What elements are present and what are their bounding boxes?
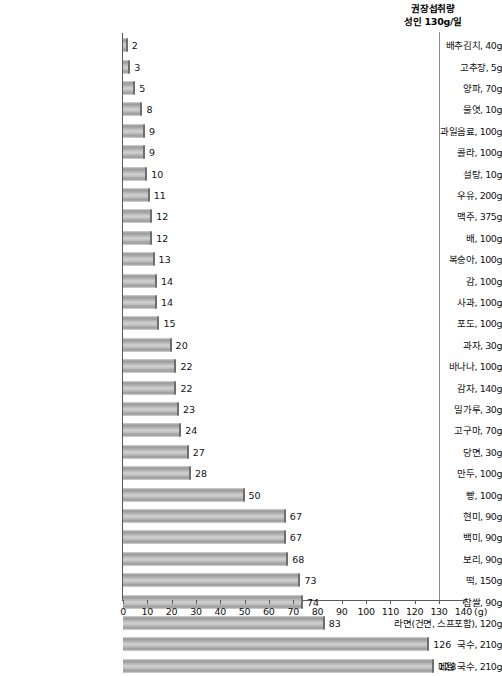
x-axis-tick	[463, 600, 464, 604]
bar-fill	[123, 210, 152, 223]
bar-end-cap	[284, 531, 286, 544]
bar	[123, 295, 157, 308]
bar-value-label: 68	[292, 553, 304, 564]
bar-value-label: 83	[329, 617, 341, 628]
bar-fill	[123, 146, 145, 159]
bar-value-label: 126	[433, 639, 451, 650]
bar-end-cap	[128, 60, 130, 73]
bar	[123, 60, 130, 73]
bar-row: 맥주, 375g12	[0, 206, 502, 227]
bar	[123, 552, 288, 565]
bar-category-label: 빵, 100g	[386, 489, 502, 500]
bar-row: 과일음료, 100g9	[0, 120, 502, 141]
bar-fill	[123, 552, 288, 565]
bar-fill	[123, 616, 325, 629]
bar	[123, 424, 181, 437]
bar-category-label: 라면(건면, 스프포함), 120g	[386, 617, 502, 628]
bar-row: 사과, 100g14	[0, 291, 502, 312]
bar-row: 밀가루, 30g23	[0, 398, 502, 419]
bar-value-label: 23	[183, 403, 195, 414]
x-axis-tick	[342, 600, 343, 604]
bar-fill	[123, 253, 155, 266]
bar-row: 메밀 국수, 210g128	[0, 655, 502, 676]
x-axis-tick	[317, 600, 318, 604]
bar-fill	[123, 574, 300, 587]
bar-end-cap	[286, 552, 288, 565]
bar-end-cap	[174, 381, 176, 394]
bar-value-label: 11	[154, 189, 166, 200]
bar-category-label: 맥주, 375g	[386, 211, 502, 222]
bar	[123, 402, 179, 415]
bar-value-label: 8	[146, 104, 152, 115]
bar-category-label: 백미, 90g	[386, 532, 502, 543]
bar-end-cap	[145, 167, 147, 180]
bar-value-label: 50	[249, 489, 261, 500]
bar-value-label: 73	[304, 575, 316, 586]
x-axis-tick	[220, 600, 221, 604]
bar-end-cap	[179, 424, 181, 437]
x-axis-tick	[245, 600, 246, 604]
bar-value-label: 24	[185, 425, 197, 436]
x-axis-tick	[147, 600, 148, 604]
bar-end-cap	[157, 317, 159, 330]
x-axis-tick	[366, 600, 367, 604]
bar-end-cap	[323, 616, 325, 629]
bar-value-label: 5	[139, 82, 145, 93]
bar	[123, 638, 429, 651]
bar-fill	[123, 659, 434, 672]
bar-end-cap	[143, 124, 145, 137]
x-axis-tick	[390, 600, 391, 604]
bar-category-label: 보리, 90g	[386, 553, 502, 564]
x-axis-tick	[172, 600, 173, 604]
bar	[123, 231, 152, 244]
bar-category-label: 물엿, 10g	[386, 104, 502, 115]
bar-fill	[123, 445, 189, 458]
bar-value-label: 20	[176, 339, 188, 350]
bar-value-label: 14	[161, 275, 173, 286]
bar-row: 만두, 100g28	[0, 463, 502, 484]
bar-value-label: 10	[151, 168, 163, 179]
bar-value-label: 9	[149, 147, 155, 158]
bar-row: 포도, 100g15	[0, 313, 502, 334]
bar-end-cap	[133, 81, 135, 94]
bar-end-cap	[126, 39, 128, 52]
bar-end-cap	[187, 445, 189, 458]
bar-category-label: 배, 100g	[386, 232, 502, 243]
bar-category-label: 양파, 70g	[386, 82, 502, 93]
bar	[123, 381, 176, 394]
bar-fill	[123, 488, 245, 501]
bar-row: 배추김치, 40g2	[0, 35, 502, 56]
bar-row: 감자, 140g22	[0, 377, 502, 398]
bar-row: 과자, 30g20	[0, 334, 502, 355]
bar-fill	[123, 509, 286, 522]
bar-category-label: 우유, 200g	[386, 189, 502, 200]
bar-end-cap	[155, 274, 157, 287]
bar-value-label: 67	[290, 510, 302, 521]
bar-category-label: 밀가루, 30g	[386, 403, 502, 414]
bar-row: 감, 100g14	[0, 270, 502, 291]
bar	[123, 274, 157, 287]
bar-value-label: 12	[156, 232, 168, 243]
bar-row: 고추장, 5g3	[0, 56, 502, 77]
bar	[123, 210, 152, 223]
bar-fill	[123, 638, 429, 651]
bar	[123, 81, 135, 94]
bar-row: 떡, 150g73	[0, 570, 502, 591]
bar-category-label: 현미, 90g	[386, 510, 502, 521]
x-axis-tick	[123, 600, 124, 604]
bar-row: 빵, 100g50	[0, 484, 502, 505]
bar-fill	[123, 124, 145, 137]
bar-value-label: 22	[180, 382, 192, 393]
bar-fill	[123, 424, 181, 437]
bar-row: 백미, 90g67	[0, 527, 502, 548]
bar-category-label: 만두, 100g	[386, 468, 502, 479]
bar	[123, 146, 145, 159]
bar	[123, 488, 245, 501]
bar-row: 복숭아, 100g13	[0, 249, 502, 270]
bar-value-label: 2	[132, 40, 138, 51]
bar-end-cap	[298, 574, 300, 587]
bar	[123, 509, 286, 522]
bar-end-cap	[174, 360, 176, 373]
bar	[123, 445, 189, 458]
